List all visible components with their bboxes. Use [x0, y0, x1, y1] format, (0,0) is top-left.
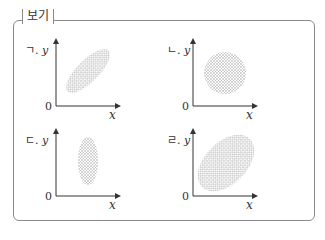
panel-3-label: ㄷ. y: [25, 131, 48, 147]
panel-3-x-label: x: [109, 198, 116, 212]
panel-4-origin: 0: [182, 190, 189, 203]
panel-1-label: ㄱ. y: [25, 41, 48, 57]
panel-1: [56, 41, 118, 106]
panel-3-origin: 0: [45, 190, 52, 203]
panel-4-label: ㄹ. y: [167, 131, 190, 147]
panel-3: [56, 131, 118, 196]
panel-2: [193, 41, 255, 106]
panel-4-x-label: x: [246, 198, 253, 212]
panel-4: [187, 124, 265, 202]
panel-1-x-label: x: [109, 108, 116, 122]
panel-1-origin: 0: [45, 100, 52, 113]
panel-2-x-label: x: [246, 108, 253, 122]
panel-2-origin: 0: [182, 100, 189, 113]
panel-2-label: ㄴ. y: [167, 41, 190, 57]
